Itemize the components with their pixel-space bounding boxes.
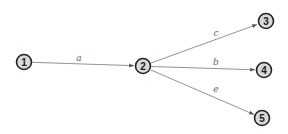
node-3-label: 3: [263, 16, 269, 27]
edge-label-e: e: [213, 84, 218, 94]
node-5: 5: [255, 111, 270, 126]
edge-label-a: a: [76, 53, 81, 63]
node-4: 4: [257, 63, 272, 78]
edge-1-2: [32, 62, 134, 65]
node-1-label: 1: [21, 57, 27, 68]
node-2-label: 2: [140, 61, 146, 72]
edge-label-b: b: [213, 57, 219, 67]
graph-diagram: a c b e 1 2 3 4 5: [0, 0, 288, 134]
node-1: 1: [17, 55, 32, 70]
edge-label-c: c: [213, 28, 218, 38]
node-4-label: 4: [261, 65, 267, 76]
edge-2-3: [151, 25, 257, 64]
node-5-label: 5: [259, 113, 265, 124]
edge-2-4: [152, 67, 256, 70]
node-3: 3: [259, 14, 274, 29]
edge-2-5: [151, 70, 254, 115]
node-2: 2: [136, 59, 151, 74]
